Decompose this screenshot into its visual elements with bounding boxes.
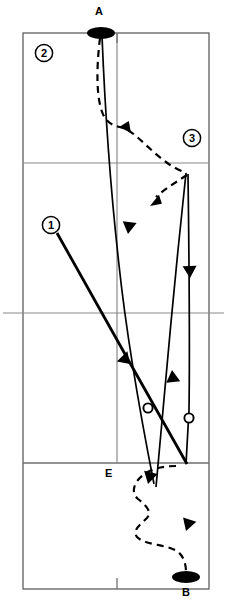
callout-label-3[interactable]: 3 [183,129,201,147]
arrow-solid-right-dn [183,266,197,278]
callout-label-1[interactable]: 1 [42,216,60,234]
frame-group [3,33,224,589]
open-circle-markers-group [143,403,193,422]
dashed-path-3-left [156,175,187,197]
trajectory-diagram [0,0,228,604]
dashed-path-bottom [134,466,186,572]
callouts-group [35,44,200,233]
solid-path-main [102,36,154,484]
solid-path-callout-1 [57,233,187,464]
dashed-paths-group [97,38,187,572]
frame-border [23,33,209,589]
dashed-path-top [97,38,186,173]
solid-path-up [156,173,186,487]
arrow-solid-down-1 [121,221,137,235]
endpoint-marker-a [87,27,115,39]
endpoint-markers-group [87,27,200,583]
diagram-canvas: A B E 2 1 3 [0,0,228,604]
endpoint-label-b: B [182,587,190,598]
point-label-e: E [105,468,113,479]
open-circle-right [184,413,193,422]
solid-paths-group [57,36,189,487]
endpoint-marker-b [172,571,200,583]
callout-label-2[interactable]: 2 [35,44,53,62]
open-circle-left [143,403,152,412]
arrow-dashed-top [118,119,133,133]
endpoint-label-a: A [95,6,103,17]
arrow-dashed-E [141,471,157,486]
arrow-dashed-lower [179,517,196,533]
